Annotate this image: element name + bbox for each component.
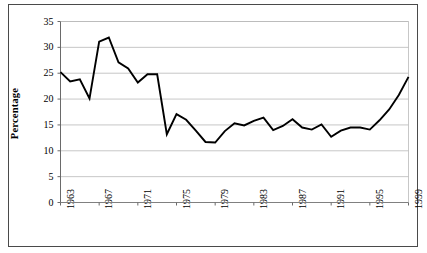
plot-wrapper: Percentage 05101520253035 19631967197119… bbox=[0, 0, 427, 253]
chart-figure: Percentage 05101520253035 19631967197119… bbox=[0, 0, 427, 253]
axis-ticks bbox=[58, 22, 409, 206]
chart-plot-svg bbox=[0, 0, 427, 253]
data-series-line bbox=[61, 38, 409, 143]
